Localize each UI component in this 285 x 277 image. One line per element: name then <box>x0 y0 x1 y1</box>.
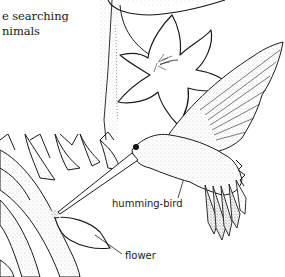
bird-leader-line <box>178 178 184 198</box>
body-text-line: e searching <box>2 9 69 24</box>
stem-shading <box>100 0 120 140</box>
textbook-page: e searching nimals humming-bird flower <box>0 0 285 277</box>
body-text-line: nimals <box>2 24 69 39</box>
leaves <box>0 134 120 277</box>
label-flower: flower <box>125 250 156 261</box>
hummingbird-eye <box>133 144 139 150</box>
body-text: e searching nimals <box>2 9 69 39</box>
text-panel: e searching nimals <box>0 0 100 134</box>
label-humming-bird: humming-bird <box>112 198 183 209</box>
